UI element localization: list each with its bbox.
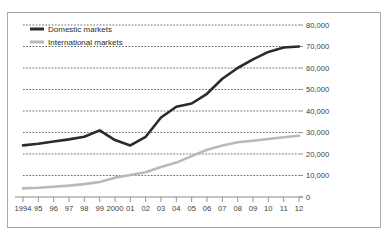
- series-line: [23, 136, 299, 189]
- x-tick-label: 2000: [107, 204, 124, 213]
- y-tick-label: 10,000: [306, 171, 329, 180]
- x-tick-label: 02: [141, 204, 149, 213]
- y-axis-tick-labels: 80,00070,00060,00050,00040,00030,00020,0…: [306, 21, 329, 202]
- series-line: [23, 47, 299, 146]
- x-tick-label: 04: [172, 204, 180, 213]
- gridlines: [23, 25, 303, 197]
- y-tick-label: 60,000: [306, 64, 329, 73]
- x-tick-label: 98: [80, 204, 88, 213]
- y-tick-label: 0: [306, 193, 310, 202]
- y-tick-label: 20,000: [306, 150, 329, 159]
- x-tick-label: 03: [157, 204, 165, 213]
- chart-figure: 80,00070,00060,00050,00040,00030,00020,0…: [7, 12, 381, 228]
- x-tick-label: 1994: [15, 204, 32, 213]
- x-axis-tick-labels: 1994959697989920000102030405060708091011…: [15, 204, 304, 213]
- x-tick-label: 95: [34, 204, 42, 213]
- x-tick-label: 99: [95, 204, 103, 213]
- y-tick-label: 30,000: [306, 128, 329, 137]
- x-tick-label: 12: [295, 204, 303, 213]
- y-tick-label: 80,000: [306, 21, 329, 30]
- x-tick-label: 05: [187, 204, 195, 213]
- x-tick-label: 06: [203, 204, 211, 213]
- x-tick-label: 09: [249, 204, 257, 213]
- x-tick-label: 97: [65, 204, 73, 213]
- x-tick-label: 07: [218, 204, 226, 213]
- y-tick-label: 70,000: [306, 42, 329, 51]
- x-tick-label: 96: [49, 204, 57, 213]
- y-tick-label: 50,000: [306, 85, 329, 94]
- legend-label: Domestic markets: [48, 25, 112, 34]
- chart-legend: Domestic marketsInternational markets: [30, 25, 123, 47]
- legend-label: International markets: [48, 38, 123, 47]
- line-chart: 80,00070,00060,00050,00040,00030,00020,0…: [8, 13, 382, 229]
- x-tick-label: 01: [126, 204, 134, 213]
- x-tick-label: 11: [280, 204, 288, 213]
- x-axis: [15, 197, 303, 202]
- x-tick-label: 10: [264, 204, 272, 213]
- y-tick-label: 40,000: [306, 107, 329, 116]
- x-tick-label: 08: [233, 204, 241, 213]
